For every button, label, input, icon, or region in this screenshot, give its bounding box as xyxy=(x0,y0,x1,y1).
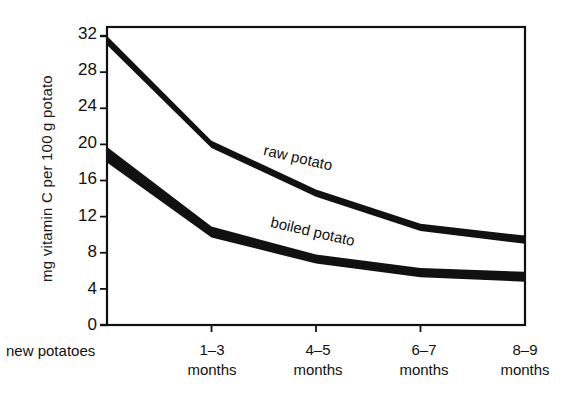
plot-frame xyxy=(107,27,525,325)
y-axis-title: mg vitamin C per 100 g potato xyxy=(38,29,55,329)
y-tick-label-28: 28 xyxy=(57,61,97,78)
x-tick-label-4-5-months-unit: months xyxy=(258,360,378,380)
x-tick-label-8-9-months-unit: months xyxy=(465,360,578,380)
y-tick-label-0: 0 xyxy=(57,316,97,333)
y-tick-label-32: 32 xyxy=(57,25,97,42)
y-tick-label-8: 8 xyxy=(57,243,97,260)
series-band-raw-potato xyxy=(107,36,525,244)
vitamin-c-chart: mg vitamin C per 100 g potato 32 28 24 2… xyxy=(0,0,578,396)
x-tick-label-8-9-months: 8–9 months xyxy=(465,340,578,380)
x-tick-label-1-3-months-unit: months xyxy=(152,360,272,380)
y-tick-label-12: 12 xyxy=(57,207,97,224)
y-tick-label-4: 4 xyxy=(57,280,97,297)
y-tick-label-16: 16 xyxy=(57,170,97,187)
x-tick-label-1-3-months: 1–3 months xyxy=(152,340,272,380)
x-tick-label-new-potatoes: new potatoes xyxy=(6,342,95,359)
x-tick-label-4-5-months-range: 4–5 xyxy=(258,340,378,360)
x-tick-label-1-3-months-range: 1–3 xyxy=(152,340,272,360)
y-tick-label-20: 20 xyxy=(57,134,97,151)
x-tick-label-8-9-months-range: 8–9 xyxy=(465,340,578,360)
y-tick-label-24: 24 xyxy=(57,97,97,114)
x-tick-label-4-5-months: 4–5 months xyxy=(258,340,378,380)
